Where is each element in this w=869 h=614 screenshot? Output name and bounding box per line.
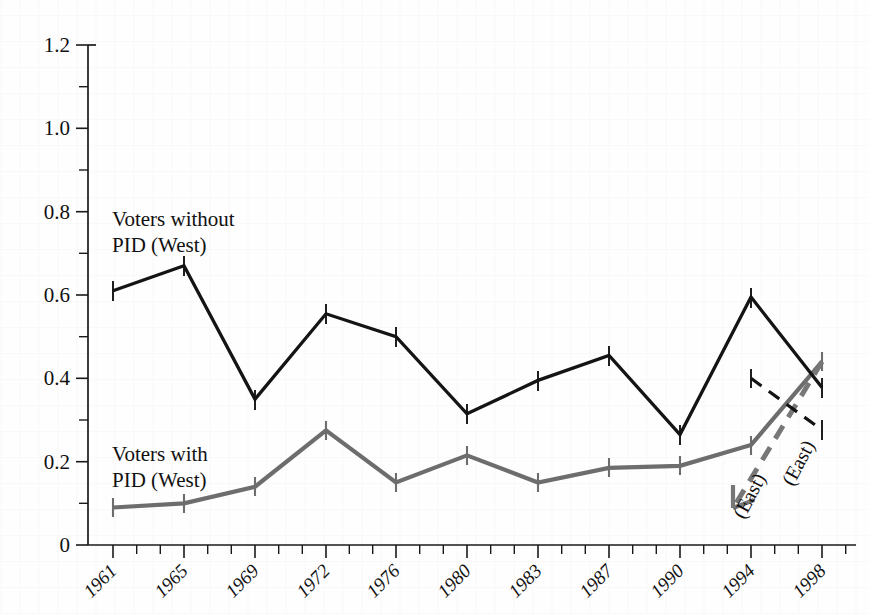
series-markers-west-pid <box>113 352 822 517</box>
x-tick-label: 1987 <box>575 559 618 602</box>
y-tick-label: 1.0 <box>44 116 70 140</box>
x-tick-label: 1972 <box>292 560 334 602</box>
annotation-east-label: (East) <box>777 436 820 489</box>
series-voters-without-pid-west <box>113 256 822 445</box>
annotation-line-2: PID (West) <box>112 233 207 257</box>
x-tick-label: 1969 <box>221 560 263 602</box>
x-axis-tick-labels: 1961 1965 1969 1972 1976 1980 1983 1987 … <box>79 559 830 602</box>
annotation-line-2: PID (West) <box>112 468 207 492</box>
annotation-east-nopid: (East) <box>777 436 820 489</box>
series-markers-west-nopid <box>113 256 822 445</box>
annotation-line-1: Voters without <box>112 207 235 231</box>
x-tick-label: 1976 <box>362 560 404 602</box>
y-axis-major-ticks <box>76 45 88 545</box>
y-tick-label: 0.6 <box>44 283 70 307</box>
y-tick-label: 0.4 <box>44 366 71 390</box>
x-tick-label: 1994 <box>717 560 759 602</box>
annotation-voters-with-pid-west: Voters with PID (West) <box>112 442 208 492</box>
x-tick-label: 1965 <box>150 560 192 602</box>
chart-page: 0 0.2 0.4 0.6 0.8 1.0 1.2 <box>0 0 869 614</box>
x-tick-label: 1980 <box>433 560 475 602</box>
y-axis-tick-labels: 0 0.2 0.4 0.6 0.8 1.0 1.2 <box>44 33 71 557</box>
y-tick-label: 0.2 <box>44 450 70 474</box>
x-tick-label: 1990 <box>646 560 688 602</box>
x-tick-label: 1961 <box>79 560 121 602</box>
line-chart: 0 0.2 0.4 0.6 0.8 1.0 1.2 <box>0 0 869 614</box>
annotation-line-1: Voters with <box>112 442 208 466</box>
x-tick-label: 1998 <box>788 560 830 602</box>
x-axis-minor-ticks <box>137 545 846 554</box>
y-tick-label: 0.8 <box>44 200 70 224</box>
y-tick-label: 1.2 <box>44 33 70 57</box>
x-tick-label: 1983 <box>504 560 546 602</box>
series-voters-with-pid-west <box>113 352 822 517</box>
annotation-voters-without-pid-west: Voters without PID (West) <box>112 207 235 257</box>
x-axis-major-ticks <box>113 545 822 558</box>
series-line-west-pid <box>113 362 822 508</box>
y-tick-label: 0 <box>60 533 71 557</box>
